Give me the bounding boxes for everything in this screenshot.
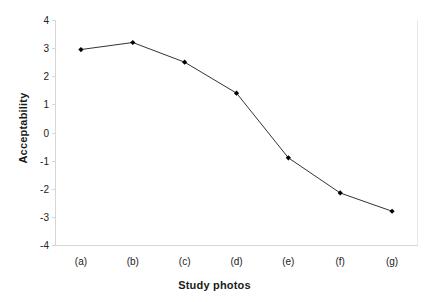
y-tick-label: -3	[40, 211, 49, 222]
y-tick-label: 3	[43, 43, 49, 54]
x-tick-label: (d)	[230, 256, 242, 267]
series-line	[81, 43, 392, 212]
x-tick-label: (a)	[75, 256, 87, 267]
x-tick-label: (c)	[179, 256, 191, 267]
x-tick-label: (g)	[386, 256, 398, 267]
series-markers	[78, 40, 394, 214]
y-tick-label: 0	[43, 127, 49, 138]
y-axis-title: Acceptability	[17, 53, 29, 203]
y-tick-label: 4	[43, 15, 49, 26]
plot-area: 43210-1-2-3-4 (a)(b)(c)(d)(e)(f)(g)	[55, 20, 418, 246]
line-chart-figure: Acceptability 43210-1-2-3-4 (a)(b)(c)(d)…	[0, 0, 429, 302]
data-point-marker	[78, 47, 83, 52]
data-point-marker	[389, 209, 394, 214]
y-tick-label: -1	[40, 155, 49, 166]
x-tick-label: (f)	[335, 256, 344, 267]
data-point-marker	[130, 40, 135, 45]
y-tick-label: -2	[40, 183, 49, 194]
x-tick-label: (b)	[127, 256, 139, 267]
y-tick-label: 1	[43, 99, 49, 110]
data-series-acceptability	[55, 20, 418, 246]
y-tick-label: 2	[43, 71, 49, 82]
x-axis-title: Study photos	[0, 279, 429, 291]
x-tick-label: (e)	[282, 256, 294, 267]
data-point-marker	[182, 60, 187, 65]
y-tick-label: -4	[40, 240, 49, 251]
